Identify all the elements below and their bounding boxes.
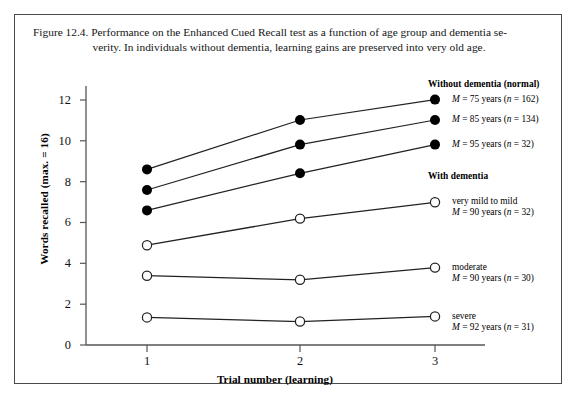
data-point-severe-trial3 (430, 312, 439, 321)
legend-stat-tail-m75: = 162) (511, 94, 538, 104)
legend-stat-m-severe: M (452, 322, 460, 332)
legend-group-with-dementia: With dementia (428, 171, 488, 181)
data-point-m75-trial2 (295, 115, 305, 125)
x-axis-ticks (147, 345, 435, 352)
legend-stat-tail-moderate: = 30) (511, 273, 533, 283)
series-line-very-mild (147, 202, 435, 245)
legend-stat-tail-very-mild: = 32) (511, 207, 533, 217)
y-tick-label-0: 0 (45, 338, 71, 353)
legend-entry-m75: M = 75 years (n = 162) (452, 94, 539, 105)
y-tick-label-2: 2 (45, 297, 71, 312)
legend-stat-rest-m75: = 75 years ( (460, 94, 507, 104)
data-point-m95-trial1 (142, 205, 152, 215)
legend-stat-tail-severe: = 31) (511, 322, 533, 332)
x-tick-label-2: 2 (289, 354, 311, 369)
legend-entry-m95: M = 95 years (n = 32) (452, 139, 534, 150)
y-axis-ticks (80, 100, 86, 345)
data-point-m85-trial3 (430, 115, 440, 125)
data-point-m75-trial1 (142, 164, 152, 174)
data-point-moderate-trial3 (430, 263, 439, 272)
legend-stat-rest-severe: = 92 years ( (460, 322, 507, 332)
legend-name-severe: severe (452, 311, 534, 322)
chart-plot-area: 12 10 8 6 4 2 0 1 2 3 Words recalled (ma… (15, 15, 563, 385)
series-markers-open (142, 198, 439, 326)
legend-stat-rest-moderate: = 90 years ( (460, 273, 507, 283)
data-point-moderate-trial1 (142, 271, 151, 280)
series-line-m75 (147, 100, 435, 170)
legend-stat-m-very-mild: M (452, 207, 460, 217)
data-point-very-mild-trial3 (430, 198, 439, 207)
legend-group-without-dementia: Without dementia (normal) (428, 79, 540, 89)
data-point-very-mild-trial2 (295, 214, 304, 223)
series-line-severe (147, 316, 435, 321)
series-lines (147, 100, 435, 322)
x-tick-label-3: 3 (424, 354, 446, 369)
data-point-m95-trial2 (295, 168, 305, 178)
x-tick-label-1: 1 (136, 354, 158, 369)
data-point-m75-trial3 (430, 95, 440, 105)
legend-stat-m-moderate: M (452, 273, 460, 283)
data-point-severe-trial1 (142, 313, 151, 322)
data-point-severe-trial2 (295, 317, 304, 326)
legend-entry-severe: severe M = 92 years (n = 31) (452, 311, 534, 334)
legend-stat-m-m75: M (452, 94, 460, 104)
series-markers-filled (142, 95, 440, 216)
legend-stat-rest-m95: = 95 years ( (460, 139, 507, 149)
y-axis-title: Words recalled (max. = 16) (38, 104, 50, 294)
data-point-m95-trial3 (430, 140, 440, 150)
legend-name-moderate: moderate (452, 262, 534, 273)
legend-stat-tail-m85: = 134) (511, 114, 538, 124)
data-point-very-mild-trial1 (142, 241, 151, 250)
data-point-m85-trial1 (142, 185, 152, 195)
legend-stat-rest-m85: = 85 years ( (460, 114, 507, 124)
legend-stat-rest-very-mild: = 90 years ( (460, 207, 507, 217)
figure-frame: Figure 12.4. Performance on the Enhanced… (14, 14, 562, 384)
legend-entry-m85: M = 85 years (n = 134) (452, 114, 539, 125)
legend-stat-tail-m95: = 32) (511, 139, 533, 149)
legend-entry-very-mild: very mild to mild M = 90 years (n = 32) (452, 196, 534, 219)
legend-stat-m-m85: M (452, 114, 460, 124)
legend-entry-moderate: moderate M = 90 years (n = 30) (452, 262, 534, 285)
data-point-m85-trial2 (295, 140, 305, 150)
series-line-moderate (147, 268, 435, 280)
legend-name-very-mild: very mild to mild (452, 196, 534, 207)
x-axis-title: Trial number (learning) (165, 373, 385, 385)
data-point-moderate-trial2 (295, 275, 304, 284)
legend-stat-m-m95: M (452, 139, 460, 149)
